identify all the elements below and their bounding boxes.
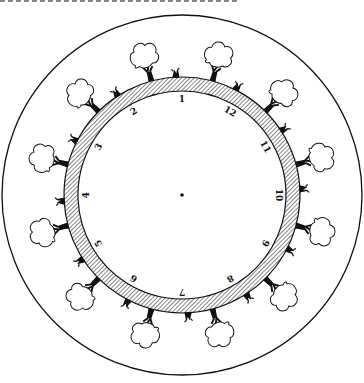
ring-number-9: 9 — [260, 238, 272, 248]
ring-number-8: 8 — [225, 273, 235, 285]
clock-tree-diagram: 123456789101112 — [0, 0, 364, 383]
shrub-icon — [300, 184, 309, 192]
shrub-icon — [184, 313, 192, 322]
ring-number-5: 5 — [93, 238, 105, 248]
tree-icon — [293, 211, 338, 248]
tree-icon — [26, 213, 71, 250]
tree-icon — [26, 141, 71, 178]
center-dot — [180, 193, 184, 197]
shrub-icon — [55, 197, 64, 205]
ring-number-4: 4 — [81, 192, 91, 198]
ring-number-1: 1 — [179, 94, 185, 104]
ring-number-7: 7 — [179, 287, 185, 297]
tree-icon — [128, 306, 165, 351]
shrub-icon — [171, 68, 179, 77]
tree-icon — [127, 39, 164, 84]
ring-number-10: 10 — [274, 189, 284, 202]
ring-number-6: 6 — [129, 273, 139, 285]
tree-icon — [292, 140, 337, 177]
tree-icon — [200, 305, 237, 350]
ring-number-2: 2 — [129, 106, 139, 118]
ring-number-3: 3 — [93, 142, 105, 152]
tree-icon — [198, 39, 235, 84]
